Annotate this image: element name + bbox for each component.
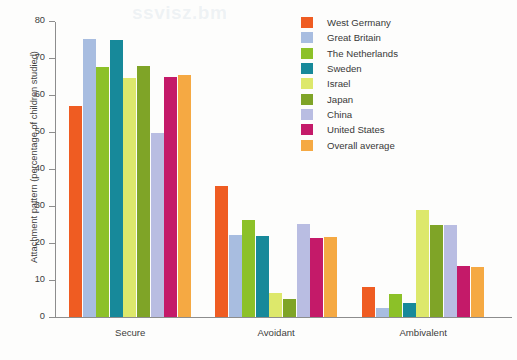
legend-item-united-states[interactable]: United States <box>301 122 501 137</box>
bar[interactable] <box>164 77 177 318</box>
bar[interactable] <box>444 225 457 318</box>
bar[interactable] <box>457 266 470 317</box>
legend-label: United States <box>327 124 385 135</box>
bar[interactable] <box>416 210 429 317</box>
bar[interactable] <box>256 236 269 317</box>
legend-item-the-netherlands[interactable]: The Netherlands <box>301 46 501 61</box>
y-tick-40: 40 <box>49 169 55 170</box>
legend-item-japan[interactable]: Japan <box>301 91 501 106</box>
bar[interactable] <box>123 78 136 317</box>
legend-swatch-icon <box>301 32 313 43</box>
y-tick-label-40: 40 <box>35 163 45 173</box>
bar[interactable] <box>362 287 375 317</box>
legend-label: China <box>327 109 352 120</box>
bar[interactable] <box>151 133 164 317</box>
legend: West GermanyGreat BritainThe Netherlands… <box>301 15 501 153</box>
legend-swatch-icon <box>301 94 313 105</box>
bar[interactable] <box>389 294 402 317</box>
y-tick-label-30: 30 <box>35 200 45 210</box>
legend-item-overall-average[interactable]: Overall average <box>301 137 501 152</box>
y-tick-10: 10 <box>49 280 55 281</box>
legend-item-israel[interactable]: Israel <box>301 76 501 91</box>
y-tick-60: 60 <box>49 95 55 96</box>
bar[interactable] <box>215 186 228 317</box>
bar[interactable] <box>471 267 484 317</box>
legend-item-china[interactable]: China <box>301 107 501 122</box>
legend-swatch-icon <box>301 124 313 135</box>
legend-swatch-icon <box>301 78 313 89</box>
y-tick-30: 30 <box>49 206 55 207</box>
bar-chart-figure: ssvisz.bm Attachment pattern (percentage… <box>0 0 517 360</box>
bar[interactable] <box>430 225 443 318</box>
legend-item-sweden[interactable]: Sweden <box>301 61 501 76</box>
bar[interactable] <box>178 75 191 317</box>
legend-label: Sweden <box>327 63 362 74</box>
legend-swatch-icon <box>301 109 313 120</box>
y-tick-label-60: 60 <box>35 89 45 99</box>
bar[interactable] <box>96 67 109 317</box>
legend-label: Overall average <box>327 140 395 151</box>
y-tick-80: 80 <box>49 21 55 22</box>
bar-group-secure <box>69 22 191 317</box>
legend-label: The Netherlands <box>327 48 398 59</box>
bar[interactable] <box>229 235 242 318</box>
x-label-avoidant: Avoidant <box>196 327 356 338</box>
y-tick-20: 20 <box>49 243 55 244</box>
y-axis-line <box>55 22 56 318</box>
scan-bleed-artifact: ssvisz.bm <box>132 2 312 24</box>
y-tick-label-50: 50 <box>35 126 45 136</box>
legend-swatch-icon <box>301 48 313 59</box>
bar[interactable] <box>324 237 337 317</box>
legend-swatch-icon <box>301 140 313 151</box>
legend-label: West Germany <box>327 17 391 28</box>
x-axis-line <box>55 317 512 318</box>
y-tick-label-80: 80 <box>35 15 45 25</box>
bar[interactable] <box>403 303 416 317</box>
legend-label: Israel <box>327 78 350 89</box>
legend-item-west-germany[interactable]: West Germany <box>301 15 501 30</box>
bar[interactable] <box>83 39 96 317</box>
bar[interactable] <box>310 238 323 317</box>
y-tick-50: 50 <box>49 132 55 133</box>
bar[interactable] <box>269 293 282 317</box>
x-label-ambivalent: Ambivalent <box>343 327 503 338</box>
y-tick-label-0: 0 <box>40 311 45 321</box>
bar[interactable] <box>110 40 123 317</box>
y-tick-label-20: 20 <box>35 237 45 247</box>
y-tick-70: 70 <box>49 58 55 59</box>
bar[interactable] <box>376 308 389 317</box>
legend-swatch-icon <box>301 63 313 74</box>
bar[interactable] <box>242 220 255 317</box>
legend-label: Japan <box>327 94 353 105</box>
legend-label: Great Britain <box>327 32 381 43</box>
y-tick-0: 0 <box>49 317 55 318</box>
bar[interactable] <box>297 224 310 317</box>
bar[interactable] <box>283 299 296 317</box>
legend-item-great-britain[interactable]: Great Britain <box>301 30 501 45</box>
bar[interactable] <box>137 66 150 317</box>
legend-swatch-icon <box>301 17 313 28</box>
bar[interactable] <box>69 106 82 317</box>
y-tick-label-70: 70 <box>35 52 45 62</box>
y-tick-label-10: 10 <box>35 274 45 284</box>
x-label-secure: Secure <box>50 327 210 338</box>
